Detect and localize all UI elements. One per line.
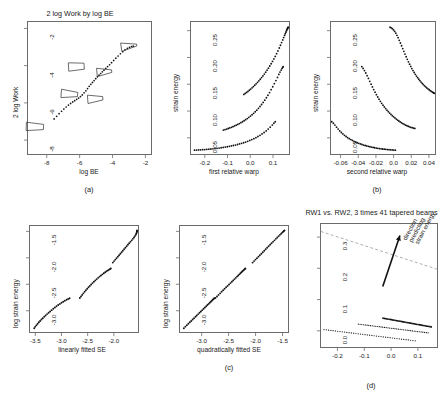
y-tick-label: 0.3 bbox=[341, 233, 348, 259]
y-tick-label: -2.5 bbox=[50, 280, 57, 306]
tapered-beam-glyph bbox=[87, 94, 103, 103]
series-segment-high bbox=[112, 229, 138, 263]
x-tick-label: -3.5 bbox=[21, 337, 49, 344]
y-tick-label: -3.0 bbox=[200, 307, 207, 333]
y-tick-label: -2 bbox=[48, 24, 55, 50]
x-tick-label: 0.04 bbox=[415, 159, 443, 166]
tapered-beam-glyph bbox=[61, 89, 78, 99]
x-tick-label: -8 bbox=[33, 159, 61, 166]
panel-c-left-points bbox=[33, 229, 138, 329]
series-high-strain-branch bbox=[243, 26, 289, 95]
panel-d-axis-ticks bbox=[317, 237, 418, 351]
y-tick-label: 0.15 bbox=[211, 80, 218, 106]
panel-b-right-axis-ticks bbox=[327, 31, 429, 158]
x-tick-label: 0.1 bbox=[404, 352, 432, 359]
tapered-beam-glyph bbox=[68, 62, 84, 71]
series-low-strain-branch bbox=[331, 121, 396, 151]
panel-b-right-points bbox=[331, 26, 435, 151]
panel-c-right: log strain energy quadratically fitted S… bbox=[150, 203, 298, 403]
panel-c-left-canvas bbox=[0, 203, 150, 403]
series-mid-strain-branch bbox=[361, 66, 416, 130]
x-tick-label: -4 bbox=[99, 159, 127, 166]
y-tick-label: -8 bbox=[48, 136, 55, 162]
series-segment-high bbox=[252, 229, 286, 263]
y-tick-label: 0.2 bbox=[341, 264, 348, 290]
direction-arrow-shaft bbox=[383, 236, 400, 287]
panel-a-points bbox=[53, 45, 134, 119]
panel-b-right: strain energy second relative warp (b) -… bbox=[300, 0, 445, 200]
x-tick-label: -2.5 bbox=[74, 337, 102, 344]
x-tick-label: -1.5 bbox=[269, 337, 297, 344]
y-tick-label: 0.05 bbox=[211, 134, 218, 160]
panel-b-left-points bbox=[194, 26, 289, 151]
y-tick-label: -1.5 bbox=[50, 227, 57, 253]
panel-b-left-axis-ticks bbox=[187, 31, 273, 158]
x-tick-label: -2 bbox=[131, 159, 159, 166]
y-tick-label: -1.5 bbox=[200, 227, 207, 253]
y-tick-label: 0.0 bbox=[341, 327, 348, 353]
y-tick-label: 0.15 bbox=[351, 80, 358, 106]
x-tick-label: -6 bbox=[66, 159, 94, 166]
y-tick-label: -4 bbox=[48, 62, 55, 88]
x-tick-label: 0.0 bbox=[377, 352, 405, 359]
y-tick-label: 0.10 bbox=[351, 107, 358, 133]
y-tick-label: -2.0 bbox=[200, 254, 207, 280]
y-tick-label: -6 bbox=[48, 99, 55, 125]
series-band-lower-dotted bbox=[323, 329, 415, 341]
x-tick-label: -0.2 bbox=[323, 352, 351, 359]
panel-d: RW1 vs. RW2, 3 times 41 tapered beams (d… bbox=[298, 203, 445, 403]
y-tick-label: -2.0 bbox=[50, 254, 57, 280]
y-tick-label: 0.25 bbox=[351, 27, 358, 53]
series-segment-mid bbox=[214, 267, 246, 299]
panel-d-points bbox=[323, 317, 432, 341]
y-tick-label: 0.10 bbox=[211, 107, 218, 133]
series-band-upper-solid bbox=[382, 317, 432, 327]
series-high-strain-branch bbox=[389, 26, 435, 94]
panel-a: 2 log Work by log BE 2 log Work log BE (… bbox=[0, 0, 160, 200]
panel-b-right-canvas bbox=[300, 0, 445, 200]
y-tick-label: 0.25 bbox=[211, 27, 218, 53]
panel-a-canvas bbox=[0, 0, 160, 200]
y-tick-label: -2.5 bbox=[200, 280, 207, 306]
panel-d-direction-arrow bbox=[383, 236, 401, 287]
panel-b-left-canvas bbox=[160, 0, 295, 200]
x-tick-label: -0.1 bbox=[350, 352, 378, 359]
tapered-beam-glyph bbox=[121, 41, 138, 51]
panel-b-left: strain energy first relative warp -0.2-0… bbox=[160, 0, 295, 200]
y-tick-label: 0.20 bbox=[211, 53, 218, 79]
y-tick-label: 0.1 bbox=[341, 296, 348, 322]
panel-c-right-canvas bbox=[150, 203, 298, 403]
panel-c-right-points bbox=[183, 229, 286, 329]
y-tick-label: 0.05 bbox=[351, 134, 358, 160]
x-tick-label: -2.5 bbox=[215, 337, 243, 344]
panel-c-left: log strain energy linearly fitted SE -3.… bbox=[0, 203, 150, 403]
x-tick-label: -3.0 bbox=[188, 337, 216, 344]
series-segment-mid bbox=[79, 267, 112, 299]
x-tick-label: -3.0 bbox=[47, 337, 75, 344]
series-log-work-vs-log-bending-energy bbox=[53, 45, 134, 119]
x-tick-label: -2.0 bbox=[100, 337, 128, 344]
x-tick-label: 0.1 bbox=[259, 159, 287, 166]
y-tick-label: -3.0 bbox=[50, 307, 57, 333]
panel-c-left-axis-ticks bbox=[26, 231, 114, 336]
tapered-beam-glyph bbox=[26, 122, 44, 131]
y-tick-label: 0.20 bbox=[351, 53, 358, 79]
x-tick-label: -2.0 bbox=[242, 337, 270, 344]
